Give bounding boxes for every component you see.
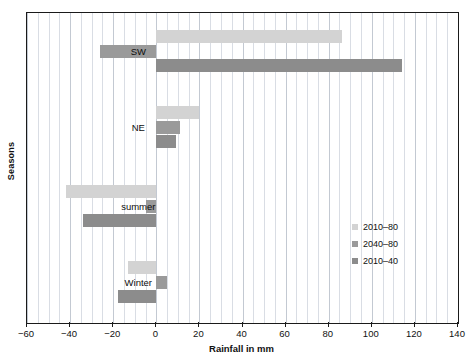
legend-swatch-icon [352,241,358,247]
x-tick [26,322,27,327]
x-tick [285,322,286,327]
bars-layer: SWNEsummerWinter [27,13,458,323]
x-tick-label: 0 [153,328,158,339]
x-axis-tick-labels: −60−40−20020406080100120140 [26,328,457,342]
bar-summer-2 [83,214,156,227]
x-tick-label: 40 [236,328,247,339]
x-tick-label: 20 [193,328,204,339]
x-tick [155,322,156,327]
x-tick [371,322,372,327]
chart-legend: 2010–802040–802010–40 [352,218,398,269]
x-axis-title: Rainfall in mm [26,343,457,354]
x-tick [242,322,243,327]
x-tick [69,322,70,327]
x-tick [457,322,458,327]
bar-ne-1 [156,121,180,134]
x-tick-label: −40 [61,328,77,339]
bar-chart: Seasons SWNEsummerWinter 2010–802040–802… [0,0,475,360]
x-tick-label: 80 [322,328,333,339]
legend-label: 2040–80 [363,239,398,249]
category-label-sw: SW [131,46,146,57]
x-tick-label: 140 [449,328,465,339]
x-tick [414,322,415,327]
bar-winter-1 [156,276,167,289]
legend-label: 2010–40 [363,256,398,266]
y-axis-title: Seasons [2,0,20,322]
category-label-winter: Winter [125,277,152,288]
legend-item-0[interactable]: 2010–80 [352,218,398,235]
bar-ne-0 [156,106,199,119]
category-label-summer: summer [121,201,155,212]
x-tick [328,322,329,327]
x-tick [112,322,113,327]
x-tick-label: −60 [18,328,34,339]
legend-item-1[interactable]: 2040–80 [352,235,398,252]
bar-ne-2 [156,135,175,148]
gridline [458,13,459,323]
x-tick [198,322,199,327]
bar-sw-0 [156,30,341,43]
x-tick-label: 120 [406,328,422,339]
x-tick-label: −20 [104,328,120,339]
legend-label: 2010–80 [363,222,398,232]
plot-area: SWNEsummerWinter [26,12,459,324]
x-tick-label: 100 [363,328,379,339]
x-tick-label: 60 [279,328,290,339]
bar-summer-0 [66,185,157,198]
bar-sw-2 [156,59,402,72]
bar-winter-2 [118,290,157,303]
category-label-ne: NE [132,122,145,133]
bar-winter-0 [128,261,156,274]
bar-sw-1 [100,45,156,58]
legend-swatch-icon [352,258,358,264]
legend-swatch-icon [352,224,358,230]
legend-item-2[interactable]: 2010–40 [352,252,398,269]
y-axis-title-text: Seasons [6,142,16,180]
